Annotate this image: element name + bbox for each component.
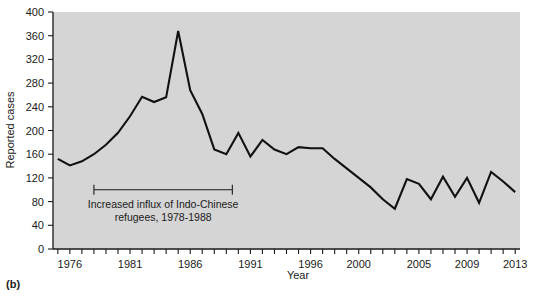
x-tick-label: 2000 — [346, 258, 370, 270]
y-tick-label: 400 — [26, 6, 44, 18]
y-tick-label: 320 — [26, 53, 44, 65]
y-axis-title: Reported cases — [4, 91, 16, 169]
x-tick-label: 1986 — [178, 258, 202, 270]
y-tick-label: 200 — [26, 125, 44, 137]
line-chart: 04080120160200240280320360400 1976198119… — [0, 0, 544, 296]
x-tick-label: 2013 — [503, 258, 527, 270]
y-tick-label: 280 — [26, 77, 44, 89]
panel-label: (b) — [6, 278, 20, 290]
y-tick-label: 240 — [26, 101, 44, 113]
x-axis-title: Year — [287, 269, 310, 281]
y-tick-label: 0 — [38, 243, 44, 255]
y-tick-label: 160 — [26, 148, 44, 160]
x-tick-label: 1976 — [58, 258, 82, 270]
figure-panel-b: 04080120160200240280320360400 1976198119… — [0, 0, 544, 296]
y-tick-label: 80 — [32, 196, 44, 208]
x-tick-label: 1991 — [238, 258, 262, 270]
annotation-text-line2: refugees, 1978-1988 — [115, 211, 212, 223]
x-tick-label: 1981 — [118, 258, 142, 270]
x-tick-label: 2005 — [407, 258, 431, 270]
y-tick-label: 40 — [32, 219, 44, 231]
annotation-text-line1: Increased influx of Indo-Chinese — [88, 198, 239, 210]
y-tick-label: 360 — [26, 30, 44, 42]
x-tick-label: 2009 — [455, 258, 479, 270]
y-tick-label: 120 — [26, 172, 44, 184]
